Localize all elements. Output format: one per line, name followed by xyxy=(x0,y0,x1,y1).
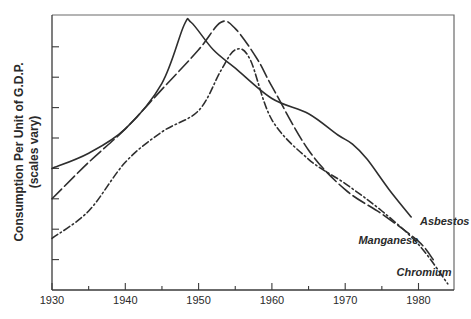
series-labels: AsbestosManganeseChromium xyxy=(358,215,469,279)
x-tick-label: 1940 xyxy=(113,294,137,306)
x-tick-label: 1930 xyxy=(40,294,64,306)
y-axis xyxy=(52,47,59,260)
frame-top-right xyxy=(52,15,454,290)
chart-canvas: Consumption Per Unit of G.D.P. (scales v… xyxy=(0,0,471,319)
line-chart: Consumption Per Unit of G.D.P. (scales v… xyxy=(0,0,471,319)
series-line-manganese xyxy=(52,21,433,260)
x-axis: 193019401950196019701980 xyxy=(40,283,431,306)
plot-frame xyxy=(52,15,454,290)
series-label-chromium: Chromium xyxy=(397,266,452,278)
x-tick-label: 1960 xyxy=(260,294,284,306)
x-tick-label: 1970 xyxy=(333,294,357,306)
y-axis-title: Consumption Per Unit of G.D.P. xyxy=(12,62,26,241)
series-line-chromium xyxy=(52,49,448,284)
y-axis-subtitle: (scales vary) xyxy=(27,116,41,189)
y-axis-label: Consumption Per Unit of G.D.P. (scales v… xyxy=(12,62,41,241)
series-label-asbestos: Asbestos xyxy=(419,215,470,227)
series-label-manganese: Manganese xyxy=(358,234,418,246)
x-tick-label: 1980 xyxy=(406,294,430,306)
x-tick-label: 1950 xyxy=(186,294,210,306)
